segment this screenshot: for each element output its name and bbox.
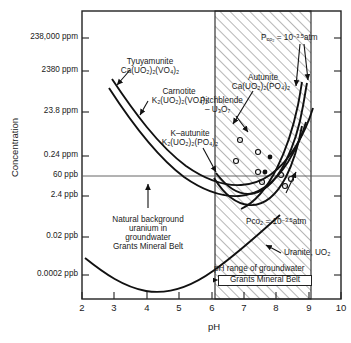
x-tick-label-8: 8 <box>266 303 286 313</box>
y-axis-ticks-right <box>334 38 341 275</box>
x-tick-label-2: 2 <box>72 303 92 313</box>
leader-k-autunite <box>203 148 216 172</box>
x-tick-label-9: 9 <box>299 303 319 313</box>
y-tick-label-0.0002ppb: 0.0002 ppb <box>2 270 78 279</box>
annotation-pco2-top: Pco₂ = 10−3.5atm <box>261 34 351 43</box>
x-tick-label-4: 4 <box>137 303 157 313</box>
annotation-pitchblende-formula: – U₃O₇ <box>205 106 265 115</box>
y-tick-label-60ppb: 60 ppb <box>2 171 78 180</box>
annotation-autunite-formula: Ca(UO₂)₂(PO₄)₂ <box>216 83 306 92</box>
annotation-ph-range: pH range of groundwater <box>214 265 344 274</box>
annotation-tyuyamunite-formula: Ca(UO₂)₂(VO₄)₂ <box>106 67 194 76</box>
x-axis-title: pH <box>196 322 232 332</box>
annotation-k-autunite-formula: K₂(UO₂)₂(PO₄)₂ <box>146 139 234 148</box>
y-tick-label-0.24ppm: 0.24 ppm <box>2 151 78 160</box>
annotation-background-line4: Grants Mineral Belt <box>85 243 211 252</box>
uranium-solubility-chart: Concentration 238,000 ppm 2380 ppm 23.8 … <box>0 0 351 343</box>
x-tick-label-7: 7 <box>234 303 254 313</box>
x-tick-label-10: 10 <box>331 303 351 313</box>
annotation-uraninite: Uranite, UO₂ <box>284 249 351 258</box>
y-tick-label-0.02ppb: 0.02 ppb <box>2 232 78 241</box>
x-tick-label-6: 6 <box>202 303 222 313</box>
x-tick-label-5: 5 <box>169 303 189 313</box>
y-tick-label-2.4ppb: 2.4 ppb <box>2 191 78 200</box>
annotation-pco2-bottom: Pco2 = 10−3.5atm <box>246 218 342 227</box>
y-tick-label-2380ppm: 2380 ppm <box>2 66 78 75</box>
annotation-grants-mineral-belt: Grants Mineral Belt <box>218 275 312 286</box>
y-tick-label-238000ppm: 238,000 ppm <box>2 33 78 42</box>
y-tick-label-23.8ppm: 23.8 ppm <box>2 107 78 116</box>
x-tick-label-3: 3 <box>104 303 124 313</box>
